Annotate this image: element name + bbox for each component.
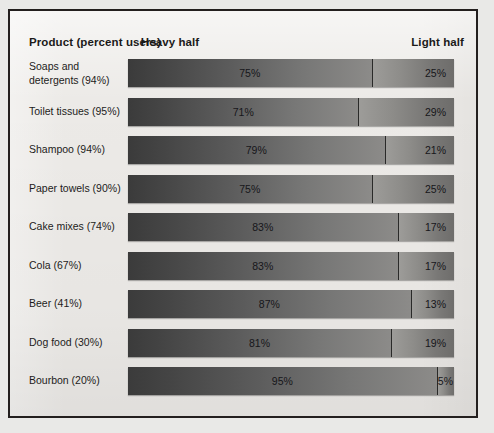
- bar-segment-light-half: 17%: [399, 213, 454, 241]
- row-label: Paper towels (90%): [29, 182, 129, 196]
- chart-frame: Product (percent users) Heavy half Light…: [8, 9, 478, 418]
- bar-value-light-half: 21%: [425, 144, 454, 156]
- row-label: Beer (41%): [29, 297, 129, 311]
- bar-value-heavy-half: 71%: [231, 106, 256, 118]
- row-label: Shampoo (94%): [29, 143, 129, 157]
- bar-segment-heavy-half: 83%: [128, 213, 399, 241]
- stacked-bar: 95%5%: [128, 367, 454, 395]
- figure-canvas: Product (percent users) Heavy half Light…: [0, 0, 494, 433]
- bar-segment-light-half: 17%: [399, 252, 454, 280]
- chart-row: Beer (41%)87%13%: [10, 290, 476, 318]
- bar-segment-light-half: 21%: [386, 136, 454, 164]
- chart-row: Toilet tissues (95%)71%29%: [10, 98, 476, 126]
- stacked-bar: 75%25%: [128, 59, 454, 87]
- row-label: Toilet tissues (95%): [29, 105, 129, 119]
- bar-segment-heavy-half: 83%: [128, 252, 399, 280]
- bar-segment-light-half: 25%: [373, 59, 455, 87]
- stacked-bar: 75%25%: [128, 175, 454, 203]
- stacked-bar: 83%17%: [128, 213, 454, 241]
- bar-value-heavy-half: 75%: [237, 183, 262, 195]
- stacked-bar: 87%13%: [128, 290, 454, 318]
- row-label: Soaps and detergents (94%): [29, 60, 129, 87]
- chart-row: Soaps and detergents (94%)75%25%: [10, 59, 476, 87]
- stacked-bar: 83%17%: [128, 252, 454, 280]
- bar-segment-light-half: 29%: [359, 98, 454, 126]
- chart-row: Shampoo (94%)79%21%: [10, 136, 476, 164]
- bar-segment-light-half: 25%: [373, 175, 455, 203]
- bar-value-heavy-half: 81%: [247, 337, 272, 349]
- chart-row: Bourbon (20%)95%5%: [10, 367, 476, 395]
- bar-segment-heavy-half: 71%: [128, 98, 359, 126]
- bar-value-heavy-half: 83%: [250, 221, 275, 233]
- chart-row: Dog food (30%)81%19%: [10, 329, 476, 357]
- chart-rows: Soaps and detergents (94%)75%25%Toilet t…: [10, 59, 476, 409]
- bar-value-light-half: 17%: [425, 260, 454, 272]
- bar-value-heavy-half: 87%: [257, 298, 282, 310]
- chart-row: Cake mixes (74%)83%17%: [10, 213, 476, 241]
- bar-value-light-half: 17%: [425, 221, 454, 233]
- bar-value-light-half: 5%: [438, 375, 454, 387]
- bar-value-heavy-half: 95%: [270, 375, 295, 387]
- bar-segment-light-half: 19%: [392, 329, 454, 357]
- bar-value-light-half: 25%: [425, 67, 454, 79]
- chart-row: Cola (67%)83%17%: [10, 252, 476, 280]
- stacked-bar: 79%21%: [128, 136, 454, 164]
- bar-segment-heavy-half: 75%: [128, 175, 373, 203]
- row-label: Bourbon (20%): [29, 374, 129, 388]
- chart-row: Paper towels (90%)75%25%: [10, 175, 476, 203]
- bar-segment-heavy-half: 81%: [128, 329, 392, 357]
- bar-segment-light-half: 5%: [438, 367, 454, 395]
- row-label: Cola (67%): [29, 259, 129, 273]
- bar-segment-light-half: 13%: [412, 290, 454, 318]
- bar-segment-heavy-half: 87%: [128, 290, 412, 318]
- bar-segment-heavy-half: 79%: [128, 136, 386, 164]
- bar-value-light-half: 19%: [425, 337, 454, 349]
- bar-value-heavy-half: 83%: [250, 260, 275, 272]
- bar-value-heavy-half: 79%: [244, 144, 269, 156]
- bar-segment-heavy-half: 75%: [128, 59, 373, 87]
- bar-value-light-half: 29%: [425, 106, 454, 118]
- row-label: Dog food (30%): [29, 336, 129, 350]
- bar-segment-heavy-half: 95%: [128, 367, 438, 395]
- bar-value-light-half: 13%: [425, 298, 454, 310]
- bar-value-heavy-half: 75%: [237, 67, 262, 79]
- column-header-light-half: Light half: [10, 36, 478, 48]
- bar-value-light-half: 25%: [425, 183, 454, 195]
- stacked-bar: 71%29%: [128, 98, 454, 126]
- stacked-bar: 81%19%: [128, 329, 454, 357]
- row-label: Cake mixes (74%): [29, 220, 129, 234]
